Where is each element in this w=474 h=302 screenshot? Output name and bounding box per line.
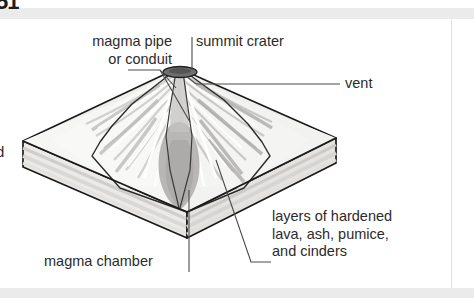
summit-crater-inner <box>169 68 191 74</box>
label-layers-of-hardened-lava: layers of hardened lava, ash, pumice, an… <box>272 208 392 261</box>
label-magma-chamber: magma chamber <box>44 253 153 271</box>
label-vent: vent <box>345 75 372 93</box>
diagram-page: 51 d <box>0 0 474 302</box>
label-magma-pipe-or-conduit: magma pipe or conduit <box>22 33 172 68</box>
label-summit-crater: summit crater <box>196 33 284 51</box>
